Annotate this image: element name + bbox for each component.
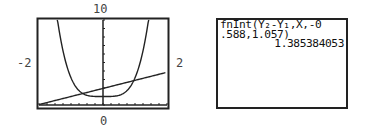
home-screen: fnInt(Y₂-Y₁,X,-0 .588,1.057) 1.385384053 [216, 18, 348, 109]
